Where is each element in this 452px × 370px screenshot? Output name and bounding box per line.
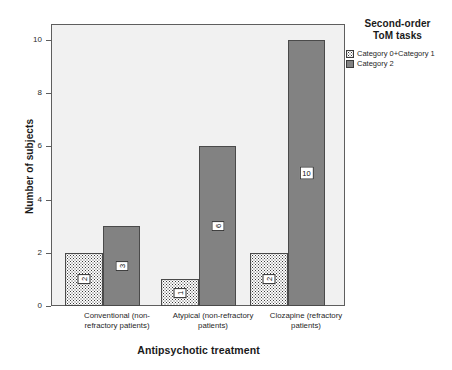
- legend-item-2[interactable]: Category 2: [346, 59, 452, 68]
- legend-item-label: Category 2: [357, 59, 394, 68]
- bar-value-label: 1: [174, 288, 187, 298]
- bar-value-label: 2: [78, 274, 91, 284]
- y-axis-title: Number of subjects: [24, 87, 35, 247]
- x-axis-title: Antipsychotic treatment: [51, 344, 346, 356]
- x-category-label-line-2: patients): [246, 321, 366, 331]
- dotted-swatch-icon: [346, 50, 354, 58]
- y-tick-label: 6: [38, 140, 42, 151]
- x-category-label-3: Clozapine (refractorypatients): [246, 311, 366, 331]
- y-tick-label: 8: [38, 87, 42, 98]
- y-tick-label: 10: [33, 34, 42, 45]
- bar-chart: Number of subjects 1086420 2316210 Conve…: [0, 0, 452, 370]
- legend-item-label: Category 0+Category 1: [357, 49, 435, 58]
- legend-items: Category 0+Category 1Category 2: [345, 49, 452, 68]
- y-tick-mark: [46, 306, 51, 307]
- bar-value-label: 2: [263, 274, 276, 284]
- bar-value-label: 3: [115, 261, 128, 271]
- y-tick-label: 2: [38, 247, 42, 258]
- legend-title-line-2: ToM tasks: [347, 30, 448, 42]
- y-tick-label: 0: [38, 300, 42, 311]
- bars-layer: 2316210: [51, 24, 345, 306]
- bar-value-label: 6: [211, 221, 224, 231]
- legend: Second-order ToM tasks Category 0+Catego…: [345, 18, 452, 69]
- x-category-label-line-1: Clozapine (refractory: [246, 311, 366, 321]
- bar-value-label: 10: [299, 166, 313, 179]
- y-tick-label: 4: [38, 194, 42, 205]
- gray-swatch-icon: [346, 60, 354, 68]
- legend-title-line-1: Second-order: [347, 18, 448, 30]
- legend-item-1[interactable]: Category 0+Category 1: [346, 49, 452, 58]
- legend-title: Second-order ToM tasks: [345, 18, 452, 42]
